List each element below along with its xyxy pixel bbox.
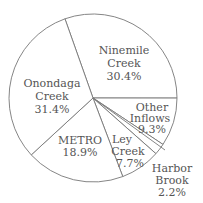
pie-chart: Ninemile Creek 30.4% Other Inflows 9.3% …: [0, 0, 203, 203]
svg-text:Creek: Creek: [107, 57, 141, 70]
svg-text:31.4%: 31.4%: [35, 103, 70, 116]
label-harbor-brook: Harbor Brook 2.2%: [152, 162, 193, 199]
svg-text:30.4%: 30.4%: [107, 70, 142, 83]
svg-text:Onondaga: Onondaga: [23, 77, 80, 90]
svg-text:2.2%: 2.2%: [158, 186, 186, 199]
svg-text:18.9%: 18.9%: [63, 146, 98, 159]
svg-text:Ninemile: Ninemile: [99, 44, 150, 57]
svg-text:7.7%: 7.7%: [116, 157, 144, 170]
svg-text:Creek: Creek: [35, 90, 69, 103]
label-metro: METRO 18.9%: [58, 134, 102, 159]
svg-text:9.3%: 9.3%: [138, 123, 166, 136]
